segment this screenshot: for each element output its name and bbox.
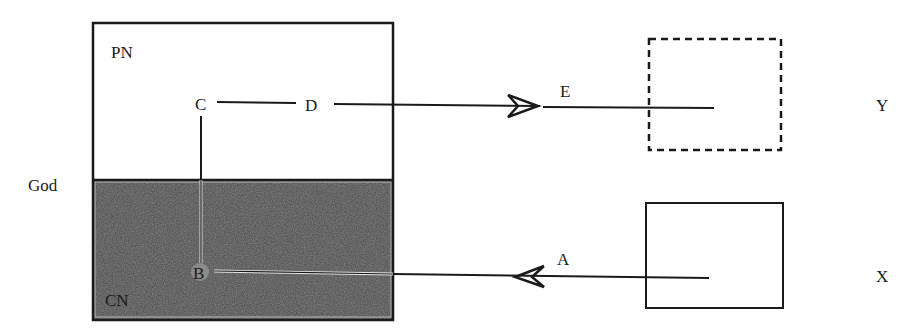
diagram-canvas: PN C D E God B CN A Y X — [0, 0, 918, 336]
node-d-label: D — [305, 96, 317, 115]
y-label: Y — [876, 96, 888, 115]
pn-label: PN — [111, 43, 133, 62]
node-b-label: B — [193, 264, 204, 283]
y-box — [649, 39, 781, 150]
node-c-label: C — [195, 95, 206, 114]
cn-label: CN — [105, 291, 129, 310]
e-y-line — [543, 107, 714, 108]
cn-region — [93, 180, 393, 320]
x-box — [646, 203, 783, 308]
god-label: God — [28, 176, 58, 195]
a-line — [393, 274, 709, 278]
c-d-line — [217, 102, 296, 103]
x-label: X — [876, 267, 888, 286]
d-e-line — [334, 104, 540, 106]
node-e-label: E — [560, 82, 570, 101]
node-a-label: A — [557, 250, 570, 269]
